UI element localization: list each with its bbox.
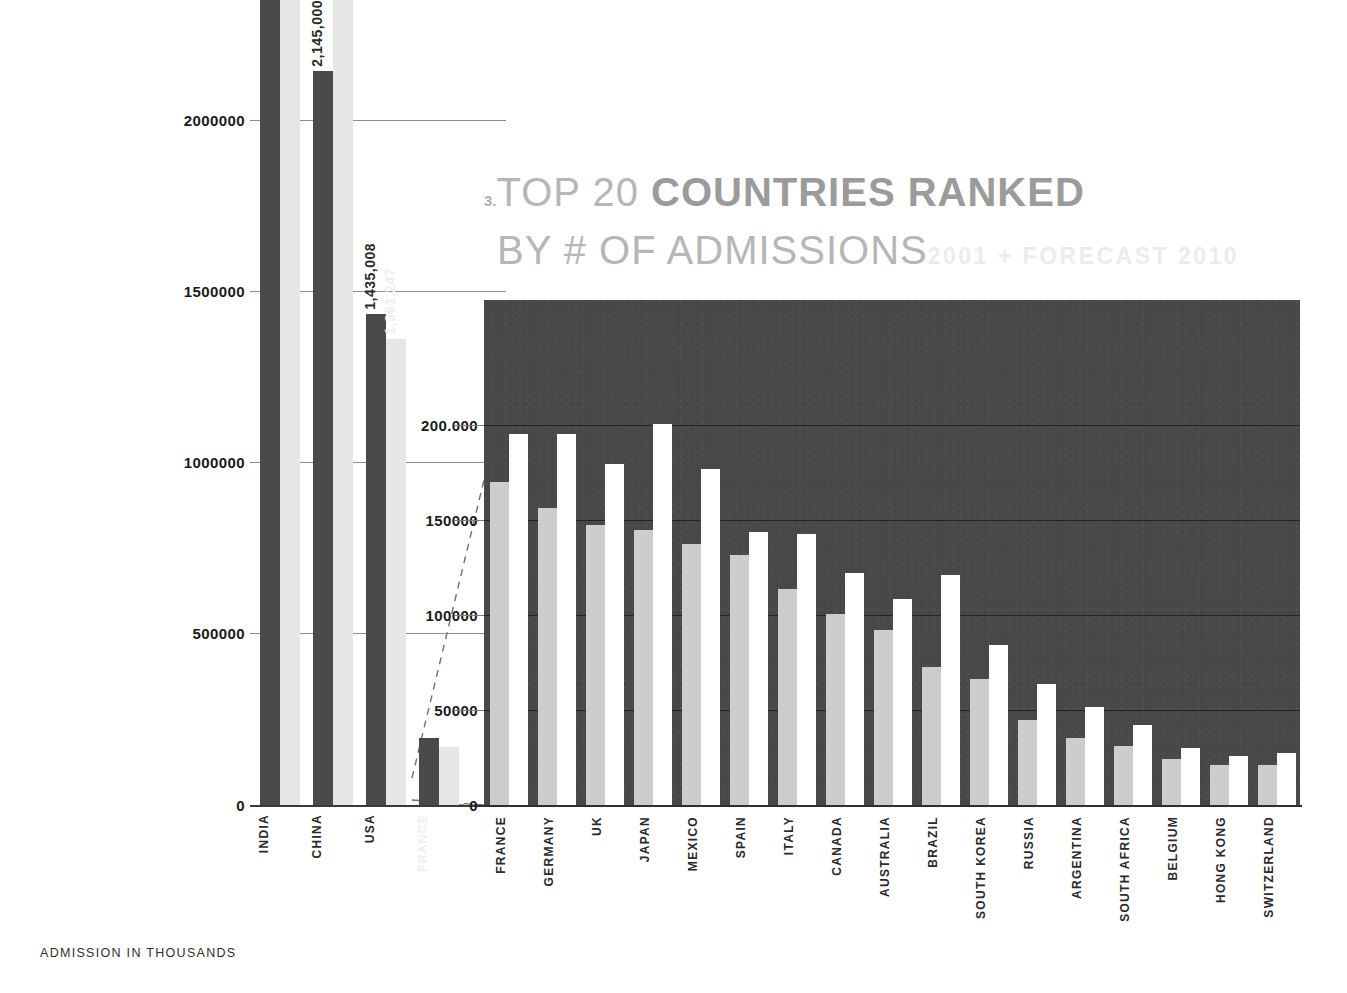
detail-bar-2010: [1181, 748, 1200, 805]
detail-category-switzerland: SWITZERLAND: [1263, 816, 1275, 918]
overview-ytick-500000: 500000: [193, 625, 245, 642]
detail-bar-2001: [874, 630, 893, 805]
overview-category-india: INDIA: [258, 814, 270, 853]
detail-bar-2010: [1133, 725, 1152, 805]
detail-bar-2010: [845, 573, 864, 805]
detail-category-germany: GERMANY: [543, 816, 555, 886]
overview-ytick-2000000: 2000000: [184, 112, 245, 129]
overview-ytick-1000000: 1000000: [184, 454, 245, 471]
detail-bar-2010: [1229, 756, 1248, 805]
detail-bar-2001: [826, 614, 845, 805]
overview-value-2010: 2,145,000: [310, 0, 324, 67]
detail-bar-2010: [557, 434, 576, 805]
detail-bar-2001: [970, 679, 989, 805]
detail-bar-2001: [1018, 720, 1037, 805]
overview-category-france: FRANCE: [417, 814, 429, 872]
overview-bar-2010: [260, 0, 280, 805]
detail-gridline: [484, 425, 1300, 426]
detail-bar-2001: [730, 555, 749, 805]
detail-bar-2010: [701, 469, 720, 805]
title-number: 3.: [484, 192, 497, 209]
detail-bar-2010: [1085, 707, 1104, 805]
overview-y-axis: 2000000 1500000 1000000 500000 0: [60, 120, 245, 805]
detail-category-mexico: MEXICO: [687, 816, 699, 871]
overview-bar-2001: [280, 0, 300, 805]
detail-gridline-extension: [455, 710, 484, 711]
detail-category-hong-kong: HONG KONG: [1215, 816, 1227, 903]
detail-category-south-korea: SOUTH KOREA: [975, 816, 987, 919]
detail-gridline-extension: [455, 425, 484, 426]
detail-category-canada: CANADA: [831, 816, 843, 876]
overview-ytick-1500000: 1500000: [184, 283, 245, 300]
detail-category-russia: RUSSIA: [1023, 816, 1035, 869]
detail-bar-2001: [1162, 759, 1181, 805]
overview-ytick-0: 0: [236, 797, 245, 814]
detail-chart-panel: 195,388170,048195,213156,313179,734147,4…: [484, 300, 1300, 805]
detail-bar-2010: [605, 464, 624, 805]
detail-bar-2001: [922, 667, 941, 805]
overview-bar-2010: [366, 314, 386, 805]
detail-bar-2010: [749, 532, 768, 805]
detail-bar-2010: [653, 424, 672, 805]
detail-category-spain: SPAIN: [735, 816, 747, 858]
detail-bar-2010: [989, 645, 1008, 805]
detail-category-france: FRANCE: [495, 816, 507, 874]
detail-category-argentina: ARGENTINA: [1071, 816, 1083, 899]
chart-title: 3.TOP 20 COUNTRIES RANKED BY # OF ADMISS…: [484, 172, 1314, 292]
detail-category-italy: ITALY: [783, 816, 795, 855]
detail-bar-2010: [1037, 684, 1056, 805]
detail-bar-2001: [682, 544, 701, 805]
title-year-range: 2001 + FORECAST 2010: [928, 243, 1239, 269]
detail-ytick-0: 0: [469, 797, 478, 814]
detail-bar-2001: [490, 482, 509, 805]
overview-bar-2001: [333, 0, 353, 805]
detail-category-uk: UK: [591, 816, 603, 836]
overview-category-china: CHINA: [311, 814, 323, 859]
detail-gridline-extension: [455, 520, 484, 521]
overview-bar-2010: [313, 71, 333, 805]
detail-bar-2001: [634, 530, 653, 805]
detail-bar-2001: [1066, 738, 1085, 805]
detail-bar-2010: [797, 534, 816, 805]
overview-category-usa: USA: [364, 814, 376, 843]
detail-bar-2001: [1258, 765, 1277, 805]
detail-category-japan: JAPAN: [639, 816, 651, 862]
detail-bar-2001: [538, 508, 557, 805]
detail-category-brazil: BRAZIL: [927, 816, 939, 868]
detail-bar-2001: [778, 589, 797, 805]
overview-value-2010: 1,435,008: [363, 243, 377, 310]
detail-bar-2010: [1277, 753, 1296, 805]
y-axis-caption: ADMISSION IN THOUSANDS: [40, 946, 236, 960]
title-countries-ranked: COUNTRIES RANKED: [651, 170, 1085, 214]
title-top20: TOP 20: [497, 170, 652, 214]
detail-bar-2001: [1210, 765, 1229, 805]
detail-bar-2001: [1114, 746, 1133, 805]
detail-category-south-africa: SOUTH AFRICA: [1119, 816, 1131, 922]
detail-axis-baseline: [478, 805, 1302, 807]
detail-bar-2010: [893, 599, 912, 805]
detail-bar-2010: [509, 434, 528, 805]
detail-category-australia: AUSTRALIA: [879, 816, 891, 897]
detail-category-belgium: BELGIUM: [1167, 816, 1179, 880]
detail-bar-2001: [586, 525, 605, 805]
detail-bar-2010: [941, 575, 960, 805]
detail-y-axis: 200.000 150000 100000 50000 0: [400, 300, 478, 810]
detail-gridline-extension: [455, 615, 484, 616]
overview-value-2001: 1,361,247: [383, 268, 397, 335]
title-by-admissions: BY # OF ADMISSIONS: [497, 228, 928, 272]
chart-canvas: 2000000 1500000 1000000 500000 0 3,061,0…: [0, 0, 1347, 993]
